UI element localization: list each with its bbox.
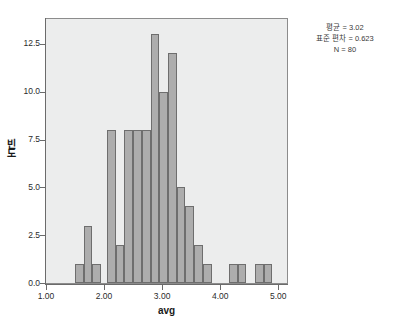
x-axis-tick-mark [46,285,47,290]
x-axis-tick-label: 1.00 [26,291,66,301]
y-axis-tick-label: 12.5 [6,39,40,48]
histogram-bar [107,130,116,283]
stats-mean: 평균 = 3.02 [300,22,390,33]
stats-sd: 표준 편차 = 0.623 [300,33,390,44]
histogram-chart: 0.02.55.07.510.012.5 빈도 1.002.003.004.00… [0,0,393,331]
histogram-bar [75,264,84,283]
y-axis-tick-label: 0.0 [6,279,40,288]
histogram-bar [185,206,194,283]
histogram-bar [255,264,264,283]
histogram-bar [116,245,125,283]
x-axis-tick-label: 2.00 [84,291,124,301]
x-axis-tick-mark [104,285,105,290]
x-axis-tick-label: 4.00 [200,291,240,301]
histogram-bar [168,53,177,283]
y-axis-tick-mark [40,44,45,45]
y-axis-tick-label: 2.5 [6,231,40,240]
y-axis-line [45,18,46,284]
histogram-bar [133,130,142,283]
y-axis-tick-label: 10.0 [6,87,40,96]
y-axis-tick-label: 5.0 [6,183,40,192]
histogram-bar [124,130,133,283]
histogram-bar [238,264,247,283]
y-axis-tick-mark [40,140,45,141]
stats-n: N = 80 [300,44,390,55]
y-axis-title: 빈도 [2,128,20,168]
y-axis-tick-mark [40,92,45,93]
x-axis-tick-mark [278,285,279,290]
plot-area [46,19,287,283]
histogram-bar [151,34,160,283]
histogram-bar [84,226,93,283]
x-axis-tick-mark [162,285,163,290]
x-axis-tick-label: 3.00 [142,291,182,301]
y-axis-tick-mark [40,187,45,188]
histogram-bar [264,264,273,283]
histogram-bar [159,92,168,283]
histogram-bar [229,264,238,283]
histogram-bar [142,130,151,283]
x-axis-line [45,284,288,285]
histogram-bar [92,264,101,283]
stats-legend: 평균 = 3.02 표준 편차 = 0.623 N = 80 [300,22,390,55]
x-axis-title: avg [45,305,288,316]
x-axis-tick-mark [220,285,221,290]
histogram-bar [177,187,186,283]
histogram-bar [194,245,203,283]
x-axis-tick-label: 5.00 [258,291,298,301]
histogram-bar [203,264,212,283]
histogram-bars [46,19,287,283]
y-axis-tick-mark [40,235,45,236]
